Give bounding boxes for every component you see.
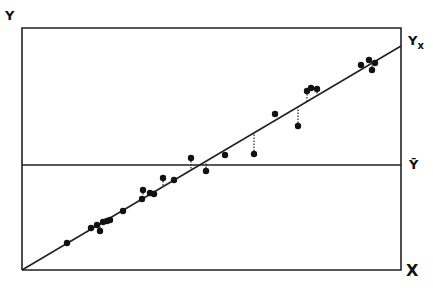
data-point <box>314 86 320 92</box>
plot-frame <box>22 28 401 270</box>
data-point <box>372 60 378 66</box>
data-point <box>272 111 278 117</box>
regression-label: Yx <box>408 34 424 51</box>
data-point <box>171 177 177 183</box>
data-point <box>151 191 157 197</box>
regression-label-main: Y <box>408 33 417 48</box>
residual-segments <box>100 63 372 231</box>
data-point <box>64 240 70 246</box>
data-point <box>295 123 301 129</box>
mean-label: Ȳ <box>409 158 418 171</box>
data-point <box>188 155 194 161</box>
data-point <box>120 208 126 214</box>
data-point <box>222 152 228 158</box>
data-point <box>308 85 314 91</box>
data-point <box>366 57 372 63</box>
regression-line <box>22 46 401 270</box>
data-point <box>94 222 100 228</box>
y-axis-label: Y <box>5 9 14 22</box>
data-point <box>140 187 146 193</box>
data-point <box>139 196 145 202</box>
data-point <box>369 67 375 73</box>
x-axis-label: X <box>406 263 418 279</box>
data-point <box>251 151 257 157</box>
data-point <box>88 225 94 231</box>
data-point <box>203 168 209 174</box>
regression-scatter-plot <box>0 0 433 298</box>
reference-lines <box>22 46 401 270</box>
data-point <box>160 175 166 181</box>
data-point <box>107 217 113 223</box>
regression-label-sub: x <box>417 40 423 51</box>
data-point <box>358 62 364 68</box>
data-point <box>97 228 103 234</box>
